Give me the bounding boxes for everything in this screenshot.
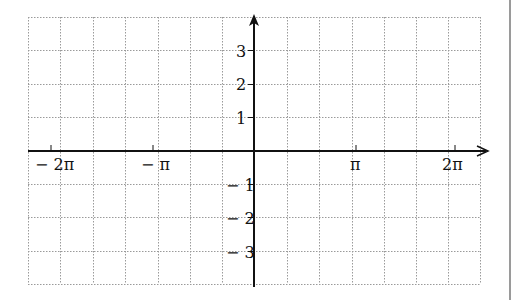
x-tick-label-pi: π	[350, 155, 361, 174]
x-axis	[28, 145, 488, 156]
y-tick-label-neg-2: − 2	[226, 209, 255, 228]
y-tick-label-neg-3: − 3	[226, 243, 255, 262]
y-tick-label-3: 3	[236, 42, 246, 61]
x-tick-label-neg-2pi: − 2π	[35, 155, 74, 174]
coordinate-grid-chart: − 2π − π π 2π 3 2 1 − 1 − 2 − 3	[0, 0, 511, 300]
x-tick-label-neg-pi: − π	[141, 155, 170, 174]
x-tick-label-2pi: 2π	[442, 155, 463, 174]
y-tick-label-2: 2	[236, 75, 246, 94]
y-tick-label-1: 1	[236, 109, 246, 128]
y-tick-label-neg-1: − 1	[226, 176, 255, 195]
